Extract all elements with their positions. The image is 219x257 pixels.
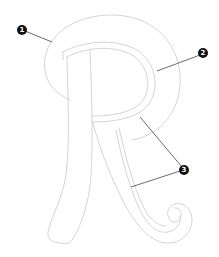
callout-3-leader-lower — [131, 171, 180, 187]
inner-bowl-inner-edge — [67, 48, 148, 116]
stem-left-edge — [48, 57, 69, 243]
callout-3-leader-upper — [140, 117, 182, 167]
callout-3-badge: 3 — [179, 165, 189, 175]
leg-inner-edge-2 — [119, 128, 166, 226]
callout-3-number: 3 — [182, 166, 187, 174]
letter-r-diagram: 1 2 3 — [0, 0, 219, 257]
callout-1-badge: 1 — [17, 25, 27, 35]
callout-1-number: 1 — [20, 26, 25, 34]
callout-2-badge: 2 — [198, 48, 208, 58]
leg-curl-inner — [170, 208, 181, 222]
callout-1-leader — [25, 31, 52, 42]
inner-bowl-outer-edge — [63, 42, 155, 122]
stem-right-edge — [60, 50, 92, 244]
callout-2-number: 2 — [201, 49, 206, 57]
callout-2-leader — [157, 55, 200, 71]
outer-bowl-outline — [44, 15, 180, 140]
